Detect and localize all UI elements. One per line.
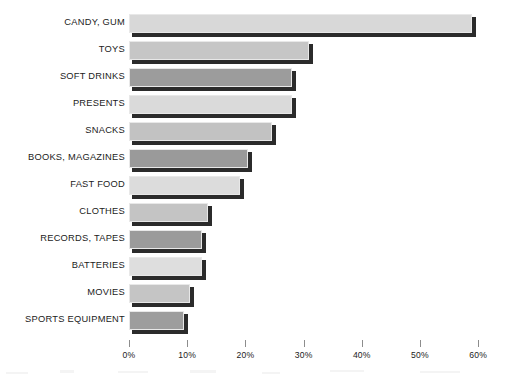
scan-artifact xyxy=(330,370,364,372)
bar-shadow xyxy=(132,249,202,253)
bar-category-label: SOFT DRINKS xyxy=(0,70,125,82)
bar-fill xyxy=(129,176,240,195)
bar-row: CLOTHES xyxy=(0,202,511,229)
x-axis-tick xyxy=(129,340,130,347)
bar xyxy=(129,230,202,253)
x-axis: 0%10%20%30%40%50%60% xyxy=(0,340,511,370)
bar-shadow xyxy=(248,152,252,172)
bar-row: CANDY, GUM xyxy=(0,13,511,40)
bar-shadow xyxy=(132,195,240,199)
x-axis-tick xyxy=(478,340,479,347)
bar-row: TOYS xyxy=(0,40,511,67)
bar-shadow xyxy=(132,222,208,226)
bar xyxy=(129,203,208,226)
bar-row: RECORDS, TAPES xyxy=(0,229,511,256)
scan-artifact xyxy=(420,371,460,373)
bar-fill xyxy=(129,311,184,330)
bar-shadow xyxy=(132,87,292,91)
bar-shadow xyxy=(132,330,184,334)
x-axis-tick xyxy=(304,340,305,347)
bar-row: PRESENTS xyxy=(0,94,511,121)
bar-category-label: BATTERIES xyxy=(0,259,125,271)
bar-shadow xyxy=(132,114,292,118)
bar-row: SNACKS xyxy=(0,121,511,148)
bar-shadow xyxy=(132,168,248,172)
bar-shadow xyxy=(132,276,202,280)
scan-artifact xyxy=(118,371,148,373)
bar-fill xyxy=(129,203,208,222)
bar xyxy=(129,284,190,307)
bar-row: FAST FOOD xyxy=(0,175,511,202)
bar xyxy=(129,14,472,37)
bar xyxy=(129,68,292,91)
scan-artifact xyxy=(60,370,74,373)
x-axis-tick xyxy=(420,340,421,347)
bar-shadow xyxy=(190,287,194,307)
bar-shadow xyxy=(272,125,276,145)
bar xyxy=(129,311,184,334)
bar-category-label: MOVIES xyxy=(0,286,125,298)
bar-fill xyxy=(129,257,202,276)
x-axis-tick-label: 10% xyxy=(167,350,207,360)
bar-shadow xyxy=(309,44,313,64)
bar-row: SPORTS EQUIPMENT xyxy=(0,310,511,337)
bar-category-label: SPORTS EQUIPMENT xyxy=(0,313,125,325)
bar xyxy=(129,257,202,280)
bar-row: BATTERIES xyxy=(0,256,511,283)
bar-shadow xyxy=(472,17,476,37)
bar-shadow xyxy=(184,314,188,334)
bar-shadow xyxy=(292,98,296,118)
x-axis-tick-label: 30% xyxy=(284,350,324,360)
scan-artifact xyxy=(262,372,280,374)
x-axis-tick xyxy=(362,340,363,347)
bar-row: BOOKS, MAGAZINES xyxy=(0,148,511,175)
bar-fill xyxy=(129,230,202,249)
bar-fill xyxy=(129,41,309,60)
bar xyxy=(129,41,309,64)
bar xyxy=(129,122,272,145)
bar-shadow xyxy=(240,179,244,199)
bar-category-label: SNACKS xyxy=(0,124,125,136)
bar xyxy=(129,176,240,199)
bar-category-label: CLOTHES xyxy=(0,205,125,217)
bar-fill xyxy=(129,149,248,168)
scan-artifact xyxy=(190,370,216,373)
x-axis-tick-label: 0% xyxy=(109,350,149,360)
bar-category-label: BOOKS, MAGAZINES xyxy=(0,151,125,163)
bar-fill xyxy=(129,68,292,87)
bar-fill xyxy=(129,95,292,114)
bar-fill xyxy=(129,14,472,33)
bar-category-label: PRESENTS xyxy=(0,97,125,109)
bar-rows-container: CANDY, GUMTOYSSOFT DRINKSPRESENTSSNACKSB… xyxy=(0,13,511,337)
bar-category-label: CANDY, GUM xyxy=(0,16,125,28)
bar-shadow xyxy=(208,206,212,226)
x-axis-tick xyxy=(187,340,188,347)
bar-shadow xyxy=(202,233,206,253)
bar-fill xyxy=(129,122,272,141)
x-axis-tick xyxy=(245,340,246,347)
bar-fill xyxy=(129,284,190,303)
bar-shadow xyxy=(132,33,472,37)
x-axis-tick-label: 50% xyxy=(400,350,440,360)
bar xyxy=(129,149,248,172)
bar-row: MOVIES xyxy=(0,283,511,310)
bar xyxy=(129,95,292,118)
bar-row: SOFT DRINKS xyxy=(0,67,511,94)
x-axis-tick-label: 20% xyxy=(225,350,265,360)
x-axis-tick-label: 40% xyxy=(342,350,382,360)
bar-shadow xyxy=(132,303,190,307)
bar-category-label: TOYS xyxy=(0,43,125,55)
bar-shadow xyxy=(292,71,296,91)
bar-category-label: RECORDS, TAPES xyxy=(0,232,125,244)
bar-shadow xyxy=(132,141,272,145)
scan-artifact xyxy=(6,372,28,374)
bar-shadow xyxy=(202,260,206,280)
bar-chart: CANDY, GUMTOYSSOFT DRINKSPRESENTSSNACKSB… xyxy=(0,0,511,381)
x-axis-tick-label: 60% xyxy=(458,350,498,360)
bar-shadow xyxy=(132,60,309,64)
bar-category-label: FAST FOOD xyxy=(0,178,125,190)
